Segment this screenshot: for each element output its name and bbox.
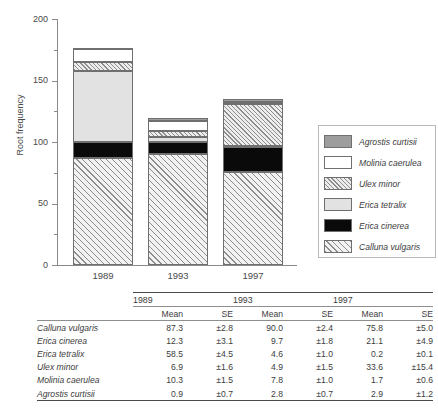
table-cell-erica-tetralix-1: ±4.5 [183, 347, 233, 360]
legend-item-molinia-caerulea[interactable]: Molinia caerulea [324, 152, 435, 173]
table-cell-molinia-caerulea-4: 1.7 [333, 374, 383, 387]
swatch-ulex-minor [324, 177, 352, 190]
table-row: Calluna vulgaris87.3±2.890.0±2.475.8±5.0 [37, 321, 433, 335]
y-tick-200 [52, 19, 58, 20]
data-table: 198919931997 MeanSEMeanSEMeanSE Calluna … [37, 292, 433, 401]
x-tick-label-1997: 1997 [223, 270, 283, 281]
table-cell-calluna-vulgaris-4: 75.8 [333, 321, 383, 335]
table-year-header-1989: 1989 [133, 293, 233, 307]
y-tick-label-200: 200 [18, 15, 48, 24]
bar-segment-erica-cinerea-1997 [223, 146, 283, 172]
table-cell-erica-cinerea-5: ±4.9 [383, 334, 433, 347]
y-tick-label-0: 0 [18, 261, 48, 270]
bar-segment-erica-cinerea-1989 [73, 142, 133, 157]
table-row: Erica tetralix58.5±4.54.6±1.00.2±0.1 [37, 347, 433, 360]
table-cell-erica-cinerea-0: 12.3 [133, 334, 183, 347]
swatch-molinia-caerulea [324, 156, 352, 169]
legend-item-calluna-vulgaris[interactable]: Calluna vulgaris [324, 236, 435, 257]
table-cell-calluna-vulgaris-3: ±2.4 [283, 321, 333, 335]
table-row-label-ulex-minor: Ulex minor [37, 361, 133, 374]
table-row: Agrostis curtisii0.9±0.72.8±0.72.9±1.2 [37, 387, 433, 401]
chart-legend: Agrostis curtisiiMolinia caeruleaUlex mi… [318, 125, 436, 258]
table-cell-molinia-caerulea-0: 10.3 [133, 374, 183, 387]
bar-segment-erica-cinerea-1993 [148, 142, 208, 154]
table-sub-header-3-se: SE [283, 307, 333, 321]
table-row-label-erica-cinerea: Erica cinerea [37, 334, 133, 347]
y-tick-50 [52, 204, 58, 205]
bar-1989 [73, 0, 133, 265]
table-cell-agrostis-curtisii-2: 2.8 [233, 387, 283, 401]
legend-item-agrostis-curtisii[interactable]: Agrostis curtisii [324, 131, 435, 152]
bar-segment-calluna-vulgaris-1993 [148, 154, 208, 265]
bar-segment-agrostis-curtisii-1997 [223, 99, 283, 103]
table-cell-ulex-minor-3: ±1.5 [283, 361, 333, 374]
table-header-year-row: 198919931997 [37, 293, 433, 307]
table-cell-erica-tetralix-4: 0.2 [333, 347, 383, 360]
legend-item-erica-cinerea[interactable]: Erica cinerea [324, 215, 435, 236]
swatch-erica-tetralix [324, 198, 352, 211]
table-row-label-calluna-vulgaris: Calluna vulgaris [37, 321, 133, 335]
table-cell-agrostis-curtisii-1: ±0.7 [183, 387, 233, 401]
table-cell-erica-cinerea-3: ±1.8 [283, 334, 333, 347]
y-tick-label-150: 150 [18, 76, 48, 85]
legend-item-erica-tetralix[interactable]: Erica tetralix [324, 194, 435, 215]
y-tick-label-50: 50 [18, 199, 48, 208]
stacked-bar-chart: Root frequency 050100150200 198919931997 [0, 0, 310, 285]
table-header-sub-row: MeanSEMeanSEMeanSE [37, 307, 433, 321]
bar-segment-ulex-minor-1997 [223, 104, 283, 145]
y-tick-label-100: 100 [18, 138, 48, 147]
legend-label: Molinia caerulea [359, 158, 422, 168]
bar-segment-ulex-minor-1993 [148, 131, 208, 137]
bar-segment-agrostis-curtisii-1989 [73, 48, 133, 50]
table-cell-molinia-caerulea-2: 7.8 [233, 374, 283, 387]
y-tick-minor-125 [54, 111, 58, 112]
table-row-label-molinia-caerulea: Molinia caerulea [37, 374, 133, 387]
table-head: 198919931997 MeanSEMeanSEMeanSE [37, 293, 433, 321]
y-tick-minor-25 [54, 234, 58, 235]
legend-label: Erica cinerea [359, 221, 409, 231]
table-body: Calluna vulgaris87.3±2.890.0±2.475.8±5.0… [37, 321, 433, 401]
table-corner-cell [37, 293, 133, 307]
legend-item-ulex-minor[interactable]: Ulex minor [324, 173, 435, 194]
table-cell-agrostis-curtisii-5: ±1.2 [383, 387, 433, 401]
x-axis-line [57, 265, 297, 266]
table-row: Ulex minor6.9±1.64.9±1.533.6±15.4 [37, 361, 433, 374]
table-sub-header-5-se: SE [383, 307, 433, 321]
table-sub-header-0-mean: Mean [133, 307, 183, 321]
bar-segment-calluna-vulgaris-1989 [73, 158, 133, 265]
table-sub-header-1-se: SE [183, 307, 233, 321]
swatch-erica-cinerea [324, 219, 352, 232]
table-cell-agrostis-curtisii-4: 2.9 [333, 387, 383, 401]
y-tick-150 [52, 81, 58, 82]
table-cell-molinia-caerulea-1: ±1.5 [183, 374, 233, 387]
table-sub-header-2-mean: Mean [233, 307, 283, 321]
legend-label: Ulex minor [359, 179, 400, 189]
y-tick-minor-175 [54, 50, 58, 51]
table-cell-calluna-vulgaris-0: 87.3 [133, 321, 183, 335]
table-cell-erica-tetralix-2: 4.6 [233, 347, 283, 360]
table-cell-molinia-caerulea-3: ±1.0 [283, 374, 333, 387]
table-cell-agrostis-curtisii-0: 0.9 [133, 387, 183, 401]
y-tick-0 [52, 265, 58, 266]
table-cell-erica-tetralix-0: 58.5 [133, 347, 183, 360]
table-cell-erica-cinerea-1: ±3.1 [183, 334, 233, 347]
y-tick-100 [52, 142, 58, 143]
bar-segment-erica-tetralix-1993 [148, 137, 208, 143]
bar-segment-erica-tetralix-1989 [73, 71, 133, 143]
y-axis-title: Root frequency [15, 85, 25, 165]
table-cell-erica-cinerea-2: 9.7 [233, 334, 283, 347]
figure-root: Root frequency 050100150200 198919931997… [0, 0, 438, 418]
bar-segment-molinia-caerulea-1989 [73, 49, 133, 62]
table-cell-agrostis-curtisii-3: ±0.7 [283, 387, 333, 401]
legend-label: Erica tetralix [359, 200, 406, 210]
table-sub-header-4-mean: Mean [333, 307, 383, 321]
bar-segment-molinia-caerulea-1993 [148, 121, 208, 131]
table-row-label-agrostis-curtisii: Agrostis curtisii [37, 387, 133, 401]
table-row: Erica cinerea12.3±3.19.7±1.821.1±4.9 [37, 334, 433, 347]
legend-label: Agrostis curtisii [359, 137, 417, 147]
bar-segment-calluna-vulgaris-1997 [223, 172, 283, 265]
table-row-label-erica-tetralix: Erica tetralix [37, 347, 133, 360]
swatch-calluna-vulgaris [324, 240, 352, 253]
y-tick-minor-75 [54, 173, 58, 174]
table-cell-erica-tetralix-3: ±1.0 [283, 347, 333, 360]
